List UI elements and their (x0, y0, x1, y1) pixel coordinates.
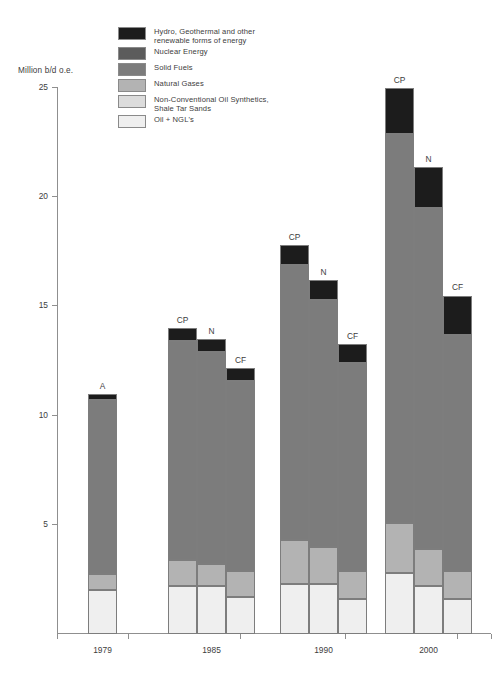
y-tick-label-25: 25 (39, 82, 48, 92)
bar-segment (88, 574, 117, 590)
bar-segment (443, 571, 472, 599)
bar-segment (88, 590, 117, 634)
y-tick-20: 20 (52, 196, 58, 197)
x-axis-label-2000: 2000 (419, 645, 438, 655)
x-axis-label-1990: 1990 (314, 645, 333, 655)
bar-2000-N: N (414, 167, 443, 634)
x-tick (240, 634, 241, 639)
y-tick-25: 25 (52, 87, 58, 88)
y-tick-label-5: 5 (43, 519, 48, 529)
y-tick-10: 10 (52, 415, 58, 416)
bar-1979-A: A (88, 394, 117, 634)
bar-segment (197, 586, 226, 634)
bar-1985-CP: CP (168, 328, 197, 634)
bar-1985-CF: CF (226, 368, 255, 634)
legend-swatch-nuclear (118, 47, 146, 60)
bar-segment (168, 560, 197, 586)
bar-segment (338, 344, 367, 364)
bar-top-label: CF (452, 282, 463, 292)
bar-segment (197, 339, 226, 352)
bar-segment (338, 599, 367, 634)
legend-item-nuclear: Nuclear Energy (118, 47, 348, 61)
bar-top-label: CF (347, 331, 358, 341)
bar-top-label: N (425, 154, 431, 164)
energy-outlook-chart: Hydro, Geothermal and other renewable fo… (0, 0, 497, 682)
bar-1990-N: N (309, 280, 338, 634)
legend-item-hydro: Hydro, Geothermal and other renewable fo… (118, 27, 348, 45)
bar-segment (197, 352, 226, 564)
x-tick (57, 634, 58, 639)
bar-top-label: CP (289, 232, 301, 242)
bar-segment (443, 296, 472, 335)
bar-segment (385, 134, 414, 523)
x-tick (491, 634, 492, 639)
y-tick-label-15: 15 (39, 300, 48, 310)
bar-segment (385, 88, 414, 134)
bar-segment (414, 208, 443, 549)
bar-top-label: A (100, 381, 106, 391)
bar-top-label: CP (177, 315, 189, 325)
y-tick-15: 15 (52, 305, 58, 306)
bar-top-label: CF (235, 355, 246, 365)
bar-segment (385, 573, 414, 634)
x-tick (128, 634, 129, 639)
bar-1985-N: N (197, 339, 226, 634)
x-tick (345, 634, 346, 639)
bar-segment (226, 381, 255, 571)
y-tick-5: 5 (52, 524, 58, 525)
legend-item-solid: Solid Fuels (118, 63, 348, 77)
y-tick-label-20: 20 (39, 191, 48, 201)
bar-segment (226, 368, 255, 381)
bar-top-label: N (208, 326, 214, 336)
bar-segment (309, 547, 338, 584)
bar-segment (280, 540, 309, 584)
bar-1990-CF: CF (338, 344, 367, 634)
plot-area: 510152025 ACPNCFCPNCFCPNCF 1979198519902… (57, 88, 491, 634)
x-axis-label-1979: 1979 (93, 645, 112, 655)
bar-top-label: CP (394, 75, 406, 85)
bar-segment (197, 564, 226, 586)
legend-label-solid: Solid Fuels (154, 63, 193, 73)
bar-segment (168, 328, 197, 341)
bar-segment (280, 584, 309, 634)
bar-segment (338, 571, 367, 599)
bar-segment (226, 597, 255, 634)
bar-segment (280, 265, 309, 540)
legend-swatch-hydro (118, 27, 146, 40)
bar-segment (168, 586, 197, 634)
bar-segment (338, 363, 367, 570)
bar-segment (309, 300, 338, 547)
bar-segment (309, 280, 338, 300)
y-axis-line (57, 88, 58, 634)
y-axis-title: Million b/d o.e. (18, 66, 73, 75)
legend-swatch-solid (118, 63, 146, 76)
bar-1990-CP: CP (280, 245, 309, 634)
bar-segment (443, 599, 472, 634)
bar-segment (280, 245, 309, 265)
bar-segment (385, 523, 414, 573)
x-tick (457, 634, 458, 639)
bar-segment (443, 335, 472, 571)
bar-segment (414, 586, 443, 634)
y-tick-label-10: 10 (39, 410, 48, 420)
bar-segment (414, 167, 443, 208)
bar-2000-CF: CF (443, 295, 472, 634)
bar-segment (309, 584, 338, 634)
bar-2000-CP: CP (385, 88, 414, 634)
bar-segment (88, 400, 117, 574)
bar-segment (168, 341, 197, 559)
legend-label-hydro: Hydro, Geothermal and other renewable fo… (154, 27, 255, 45)
x-axis-label-1985: 1985 (202, 645, 221, 655)
bar-top-label: N (320, 267, 326, 277)
legend-label-nuclear: Nuclear Energy (154, 47, 208, 57)
bar-segment (88, 394, 117, 401)
bar-segment (414, 549, 443, 586)
bar-segment (226, 571, 255, 597)
